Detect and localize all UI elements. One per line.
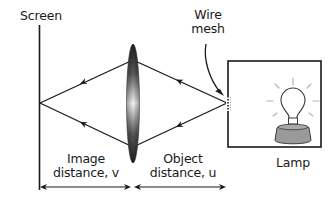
lamp-label: Lamp [270,156,316,170]
object-distance-label-line1: Object [140,152,226,166]
image-distance-label-line2: distance, v [46,166,126,180]
wire-mesh [226,96,231,111]
ray-lens-top-to-screen [40,60,133,103]
arrow-icon [215,89,224,96]
object-distance-label-line2: distance, u [140,166,226,180]
arrow-icon [175,121,184,129]
screen-label: Screen [18,9,64,23]
convex-lens [127,44,140,163]
arrow-icon [79,119,88,127]
image-distance-label-line1: Image [46,152,126,166]
ray-lens-bottom-to-screen [40,103,133,147]
wire-mesh-label-line1: Wire [186,8,230,22]
wire-mesh-label-line2: mesh [186,22,230,36]
object-distance-label: Object distance, u [140,152,226,180]
image-distance-arrow [40,184,131,190]
arrow-icon [79,78,88,86]
wire-mesh-pointer [205,44,224,96]
image-distance-label: Image distance, v [46,152,126,180]
arrow-icon [175,77,184,85]
wire-mesh-label: Wire mesh [186,8,230,36]
object-distance-arrow [134,184,226,190]
lens-experiment-diagram: Screen Wire mesh Lamp Image distance, v … [0,0,336,197]
